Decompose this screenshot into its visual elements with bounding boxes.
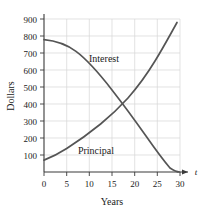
principal-curve-label: Principal	[78, 145, 114, 156]
ticklabel-x-0: 0	[42, 179, 47, 189]
ticklabel-x-5: 5	[64, 179, 69, 189]
ticklabel-x-10: 10	[85, 179, 95, 189]
ticklabel-x-15: 15	[108, 179, 118, 189]
ticklabel-y-600: 600	[24, 66, 38, 76]
interest-curve-label: Interest	[89, 53, 119, 64]
ticklabel-x-20: 20	[130, 179, 140, 189]
interest-principal-line-chart: 900 800 700 600 500 400 300 200 100 0 5 …	[0, 0, 211, 217]
ticklabel-y-700: 700	[24, 49, 38, 59]
ticklabel-y-900: 900	[24, 15, 38, 25]
ticklabel-y-100: 100	[24, 151, 38, 161]
ticklabel-y-200: 200	[24, 134, 38, 144]
ticklabel-x-30: 30	[176, 179, 186, 189]
ticklabel-y-300: 300	[24, 117, 38, 127]
x-axis-title: Years	[101, 196, 123, 207]
y-axis-tick-labels: 900 800 700 600 500 400 300 200 100	[24, 15, 38, 161]
ticklabel-y-400: 400	[24, 100, 38, 110]
ticklabel-y-500: 500	[24, 83, 38, 93]
ticklabel-y-800: 800	[24, 32, 38, 42]
y-axis-title: Dollars	[5, 81, 16, 111]
ticklabel-x-25: 25	[153, 179, 163, 189]
chart-figure: 900 800 700 600 500 400 300 200 100 0 5 …	[0, 0, 211, 217]
